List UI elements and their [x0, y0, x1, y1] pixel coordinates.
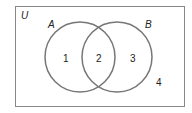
region-outside: 4: [156, 77, 162, 88]
set-a-circle: [45, 22, 115, 92]
set-a-label: A: [47, 19, 55, 30]
set-b-label: B: [145, 19, 152, 30]
region-a-and-b: 2: [96, 53, 102, 64]
set-b-circle: [82, 22, 152, 92]
venn-diagram: U A B 1 2 3 4: [0, 0, 192, 113]
universe-label: U: [21, 10, 29, 21]
region-only-b: 3: [130, 53, 136, 64]
region-only-a: 1: [63, 53, 69, 64]
